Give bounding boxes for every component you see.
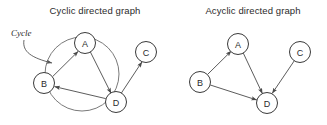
edge-b-to-a <box>53 51 78 76</box>
node-d-acyclic[interactable]: D <box>257 93 278 114</box>
node-a-cyclic[interactable]: A <box>75 33 96 54</box>
node-c-acyclic[interactable]: C <box>290 42 311 63</box>
cycle-annotation-label: Cycle <box>11 28 32 38</box>
graph-comparison-figure: Cyclic directed graph A B C D <box>0 0 327 125</box>
node-label-b-acyclic: B <box>197 78 203 88</box>
panel-title-acyclic: Acyclic directed graph <box>205 5 300 16</box>
node-label-c-acyclic: C <box>297 48 304 58</box>
edge-b-to-d-acyclic <box>210 85 256 100</box>
node-label-d-acyclic: D <box>264 99 271 109</box>
node-label-a-cyclic: A <box>82 39 88 49</box>
edge-a-to-d <box>90 52 111 93</box>
cycle-annotation: Cycle <box>11 28 52 63</box>
edge-c-to-d-acyclic <box>272 61 294 94</box>
edge-a-to-d-acyclic <box>243 53 262 94</box>
node-d-cyclic[interactable]: D <box>106 92 127 113</box>
node-label-d-cyclic: D <box>113 98 120 108</box>
edge-d-to-b <box>55 87 106 99</box>
node-label-b-cyclic: B <box>41 79 47 89</box>
panel-acyclic: Acyclic directed graph A B C D <box>190 5 311 114</box>
edges-cyclic <box>53 51 142 98</box>
node-a-acyclic[interactable]: A <box>228 34 249 55</box>
node-label-c-cyclic: C <box>143 48 150 58</box>
edge-b-to-a-acyclic <box>207 51 231 75</box>
edges-acyclic <box>207 51 294 100</box>
node-b-cyclic[interactable]: B <box>34 73 55 94</box>
panel-cyclic: Cyclic directed graph A B C D <box>11 5 157 113</box>
node-c-cyclic[interactable]: C <box>136 42 157 63</box>
panel-title-cyclic: Cyclic directed graph <box>50 5 141 16</box>
node-b-acyclic[interactable]: B <box>190 72 211 93</box>
edge-d-to-c <box>121 62 142 93</box>
node-label-a-acyclic: A <box>235 40 241 50</box>
